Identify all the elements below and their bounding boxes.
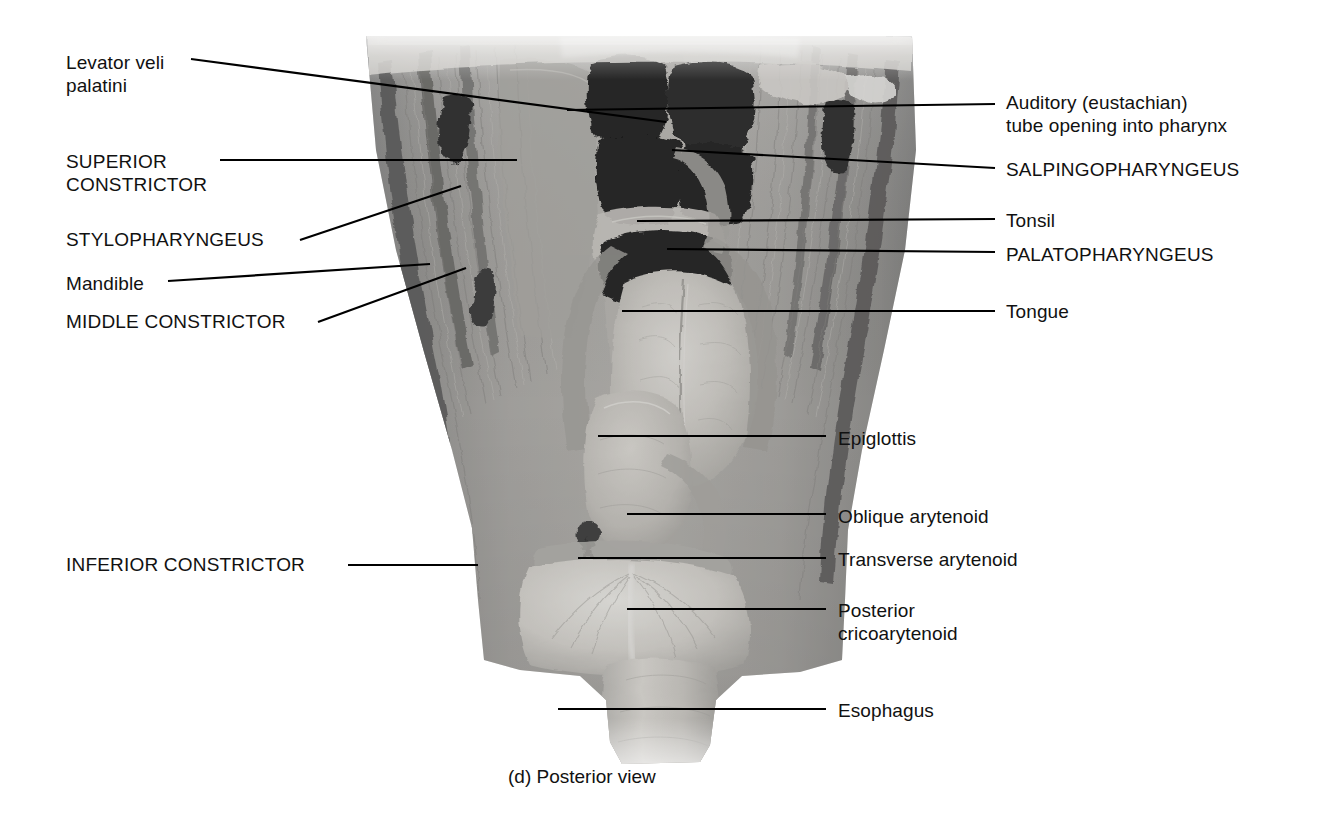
label-esophagus: Esophagus	[838, 699, 934, 722]
label-salpingopharyngeus: SALPINGOPHARYNGEUS	[1006, 158, 1239, 181]
label-superior-constrictor: SUPERIOR CONSTRICTOR	[66, 150, 207, 196]
specimen-body	[350, 20, 940, 798]
label-tonsil: Tonsil	[1006, 209, 1055, 232]
label-mandible: Mandible	[66, 272, 144, 295]
label-inferior-constrictor: INFERIOR CONSTRICTOR	[66, 553, 305, 576]
label-tongue: Tongue	[1006, 300, 1069, 323]
label-levator-veli-palatini: Levator veli palatini	[66, 51, 164, 97]
label-posterior-cricoarytenoid: Posterior cricoarytenoid	[838, 599, 958, 645]
label-transverse-arytenoid: Transverse arytenoid	[838, 548, 1018, 571]
figure-caption: (d) Posterior view	[508, 766, 656, 788]
label-middle-constrictor: MIDDLE CONSTRICTOR	[66, 310, 286, 333]
label-oblique-arytenoid: Oblique arytenoid	[838, 505, 989, 528]
anatomy-figure: Levator veli palatini SUPERIOR CONSTRICT…	[0, 0, 1322, 816]
label-stylopharyngeus: STYLOPHARYNGEUS	[66, 228, 264, 251]
label-auditory-tube-opening: Auditory (eustachian) tube opening into …	[1006, 91, 1227, 137]
label-epiglottis: Epiglottis	[838, 427, 916, 450]
label-palatopharyngeus: PALATOPHARYNGEUS	[1006, 243, 1214, 266]
